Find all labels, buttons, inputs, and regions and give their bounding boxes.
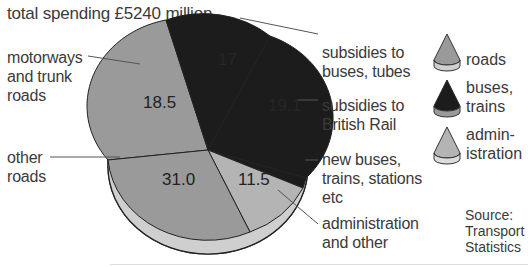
value-motorways: 18.5 (143, 93, 176, 113)
value-administration: 11.5 (238, 170, 270, 190)
legend-label: buses, (466, 78, 513, 97)
label-subsidies-buses: subsidies to buses, tubes (322, 43, 410, 81)
source-line: Transport (465, 223, 524, 239)
cone-administration-icon (432, 125, 462, 165)
value-subsidies-buses: 17 (218, 50, 237, 70)
source-line: Source: (465, 207, 524, 223)
label-line: subsidies to (322, 43, 410, 62)
legend-label: admin- (466, 125, 522, 144)
value-other-roads: 31.0 (162, 170, 195, 190)
bottom-divider (110, 264, 528, 265)
legend-label: trains (466, 97, 513, 116)
legend-item-buses-trains: buses, trains (432, 78, 513, 118)
cone-roads-icon (432, 32, 462, 72)
label-line: buses, tubes (322, 62, 410, 81)
label-line: other (7, 148, 46, 167)
legend-label: istration (466, 144, 522, 163)
source-note: Source: Transport Statistics (465, 207, 524, 255)
label-motorways: motorways and trunk roads (7, 48, 83, 105)
value-subsidies-rail: 19.1 (268, 96, 301, 116)
label-line: roads (7, 86, 83, 105)
label-new-buses: new buses, trains, stations etc (322, 150, 422, 207)
label-line: and trunk (7, 67, 83, 86)
label-line: subsidies to (322, 96, 404, 115)
legend-item-roads: roads (432, 32, 506, 72)
legend-label: roads (466, 50, 506, 69)
source-line: Statistics (465, 239, 524, 255)
label-subsidies-rail: subsidies to British Rail (322, 96, 404, 134)
label-line: trains, stations (322, 169, 422, 188)
label-line: motorways (7, 48, 83, 67)
label-line: British Rail (322, 115, 404, 134)
label-line: etc (322, 188, 422, 207)
label-line: roads (7, 167, 46, 186)
legend-item-administration: admin- istration (432, 125, 522, 165)
label-other-roads: other roads (7, 148, 46, 186)
label-line: administration (322, 214, 419, 233)
label-administration: administration and other (322, 214, 419, 252)
label-line: new buses, (322, 150, 422, 169)
label-line: and other (322, 233, 419, 252)
cone-buses-trains-icon (432, 78, 462, 118)
